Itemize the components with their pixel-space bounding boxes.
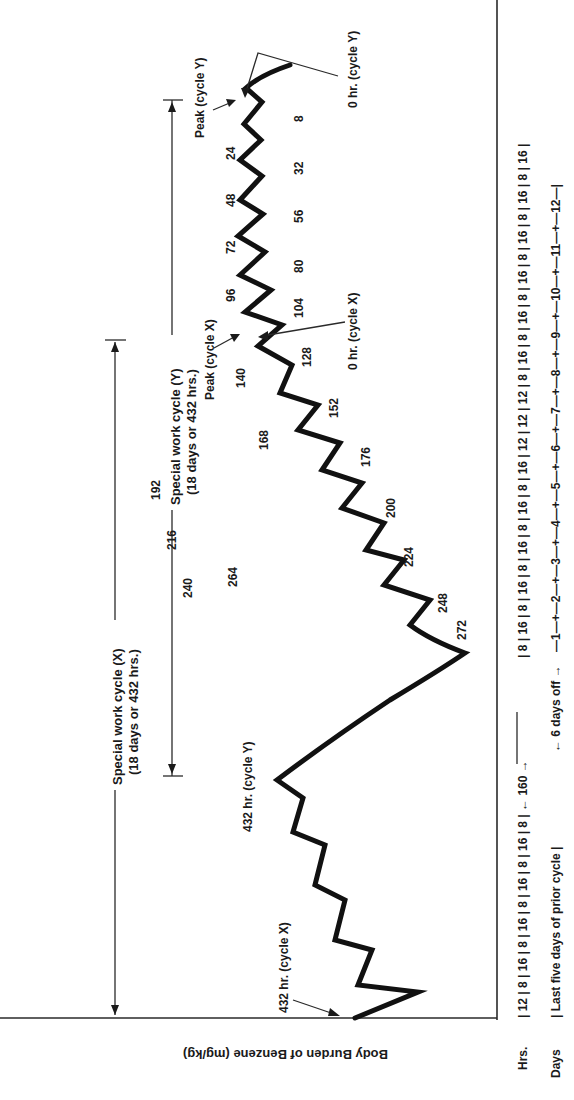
day-numbers: —1—+—2—+—3—+—4—+—5—+—6—+—7—+—8—+—9—+—10—…	[549, 184, 563, 652]
zero-y-pointer	[246, 53, 338, 92]
cycle-x-sublabel: (18 days or 432 hrs.)	[126, 649, 141, 775]
svg-text:104: 104	[292, 298, 306, 318]
svg-text:32: 32	[292, 161, 306, 175]
hours-row-values: | 12 | 8 | 16 | 8 | 16 | 8 | 16 | 8 | 16…	[516, 760, 530, 1018]
svg-text:152: 152	[327, 398, 341, 418]
cycle-x-label: Special work cycle (X)	[110, 648, 125, 785]
zero-hr-cycle-y-label: 0 hr. (cycle Y)	[346, 31, 360, 108]
svg-text:264: 264	[226, 567, 240, 587]
hours-row-label: Hrs.	[516, 1047, 530, 1070]
arrow-head-icon	[226, 99, 236, 107]
svg-text:216: 216	[165, 530, 179, 550]
svg-text:168: 168	[257, 430, 271, 450]
y-axis-label: Body Burden of Benzene (mg/kg)	[183, 1047, 388, 1062]
arrow-head-icon	[111, 342, 119, 352]
peak-cycle-x-label: Peak (cycle X)	[203, 319, 217, 400]
arrow-head-icon	[168, 764, 176, 774]
arrow-head-icon	[111, 1005, 119, 1015]
svg-text:48: 48	[224, 193, 238, 207]
trough-point-labels: 272 248 224 200 176 152 128 104 80 56 32…	[292, 115, 469, 640]
svg-text:176: 176	[359, 447, 373, 467]
hr432-cycle-y-label: 432 hr. (cycle Y)	[241, 741, 255, 832]
hr432-cycle-x-label: 432 hr. (cycle X)	[277, 922, 291, 1013]
arrow-head-icon	[328, 1008, 340, 1016]
zero-hr-cycle-x-label: 0 hr. (cycle X)	[346, 293, 360, 370]
svg-text:248: 248	[436, 593, 450, 613]
svg-text:8: 8	[292, 115, 306, 122]
hours-row: Hrs. | 12 | 8 | 16 | 8 | 16 | 8 | 16 | 8…	[516, 144, 530, 1070]
peak-cycle-y-label: Peak (cycle Y)	[193, 57, 207, 138]
days-row: Days | Last five days of prior cycle | ←…	[549, 184, 563, 1078]
svg-text:240: 240	[181, 578, 195, 598]
cycle-y-sublabel: (18 days or 432 hrs.)	[184, 369, 199, 495]
svg-text:272: 272	[455, 620, 469, 640]
days-off-label: ← 6 days off →	[549, 665, 563, 752]
svg-text:140: 140	[234, 368, 248, 388]
arrow-head-icon	[168, 102, 176, 112]
days-prior-label: | Last five days of prior cycle |	[549, 847, 563, 1018]
svg-text:200: 200	[384, 498, 398, 518]
svg-text:72: 72	[224, 240, 238, 254]
svg-text:128: 128	[300, 347, 314, 367]
days-row-label: Days	[549, 1049, 563, 1078]
svg-text:192: 192	[149, 480, 163, 500]
svg-text:56: 56	[292, 209, 306, 223]
cycle-y-label: Special work cycle (Y)	[168, 368, 183, 505]
svg-text:80: 80	[292, 259, 306, 273]
benzene-body-burden-figure: Body Burden of Benzene (mg/kg) Special w…	[0, 0, 574, 1100]
svg-text:96: 96	[224, 288, 238, 302]
hours-row-values-b: | 8 | 16 | 8 | 16 | 8 | 16 | 8 | 16 | 8 …	[516, 144, 530, 658]
svg-text:224: 224	[402, 547, 416, 567]
body-burden-curve	[238, 65, 465, 1018]
svg-text:24: 24	[224, 146, 238, 160]
